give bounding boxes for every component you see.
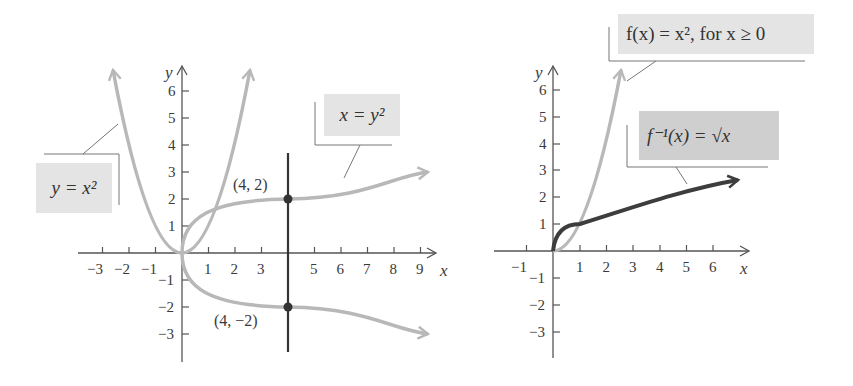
left-y-tick-label: 6	[168, 83, 176, 99]
left-y-tick-label: 4	[168, 137, 176, 153]
right-x-tick-label: 3	[629, 259, 637, 275]
right-y-axis-label: y	[533, 63, 543, 82]
left-x-tick-label: 9	[416, 261, 424, 277]
right-x-tick-label: 6	[709, 259, 717, 275]
left-y-tick-label: 5	[168, 110, 176, 126]
label-text: f(x) = x², for x ≥ 0	[626, 23, 765, 45]
sideways-parabola-upper	[182, 172, 428, 253]
right-x-tick-label: 5	[683, 259, 691, 275]
right-x-tick-label: 2	[603, 259, 611, 275]
callout-leader-x-eq-y2	[344, 145, 360, 178]
label-x-equals-y-squared: x = y²	[324, 94, 400, 136]
right-y-tick-label: 3	[539, 162, 547, 178]
left-y-ticks	[182, 91, 189, 334]
right-x-axis-label: x	[739, 259, 748, 278]
label-text: y = x²	[52, 177, 97, 199]
left-x-tick-label: 5	[310, 261, 318, 277]
left-y-tick-label: −2	[158, 299, 174, 315]
figure-canvas: −3 −2 −1 1 2 3 5 6 7 8 9 x 6 5 4 3 2 1 −…	[0, 0, 853, 386]
point-label-4-2: (4, 2)	[233, 176, 268, 194]
label-f-inverse-sqrt: f⁻¹(x) = √x	[639, 111, 779, 160]
right-y-ticks	[553, 90, 560, 332]
callout-leader-y-eq-x2	[83, 124, 118, 154]
label-y-equals-x-squared: y = x²	[36, 163, 112, 213]
right-y-tick-label: −1	[529, 270, 545, 286]
left-y-tick-label: −1	[158, 272, 174, 288]
point-4-neg2	[284, 303, 293, 312]
left-x-tick-label: 1	[204, 261, 212, 277]
right-graph: −1 1 2 3 4 5 6 x 6 5 4 3 2 1 −1 −2 −3 y	[494, 27, 805, 358]
curve-f-inverse-sqrt	[553, 180, 738, 251]
point-label-4-neg2: (4, −2)	[214, 312, 258, 330]
right-y-tick-label: 6	[539, 82, 547, 98]
left-y-axis-label: y	[163, 63, 173, 82]
right-x-tick-label: 4	[656, 259, 664, 275]
point-4-2	[284, 195, 293, 204]
left-x-tick-label: −2	[114, 261, 130, 277]
left-x-tick-label: 3	[257, 261, 265, 277]
right-y-tick-label: 4	[539, 136, 547, 152]
right-x-tick-label: −1	[511, 259, 527, 275]
left-x-tick-label: −3	[87, 261, 103, 277]
left-x-tick-label: 8	[390, 261, 398, 277]
right-y-tick-label: −3	[529, 324, 545, 340]
label-f-x-squared: f(x) = x², for x ≥ 0	[618, 14, 814, 54]
left-y-tick-label: 3	[168, 164, 176, 180]
callout-leader-f-inverse	[676, 167, 687, 184]
left-x-tick-label: −1	[141, 261, 157, 277]
left-y-tick-label: −3	[158, 326, 174, 342]
label-text: x = y²	[340, 104, 385, 126]
left-x-tick-label: 7	[363, 261, 371, 277]
left-x-ticks	[103, 247, 421, 253]
right-y-tick-label: 5	[539, 109, 547, 125]
left-y-tick-label: 1	[168, 218, 176, 234]
left-x-axis-label: x	[439, 261, 448, 280]
left-x-tick-label: 2	[231, 261, 239, 277]
right-y-tick-label: 2	[539, 189, 547, 205]
callout-leader-f	[627, 61, 656, 81]
left-x-tick-label: 6	[337, 261, 345, 277]
right-y-tick-label: −2	[529, 297, 545, 313]
label-text: f⁻¹(x) = √x	[647, 124, 730, 147]
right-x-tick-label: 1	[576, 259, 584, 275]
right-y-tick-label: 1	[539, 216, 547, 232]
left-y-tick-label: 2	[168, 191, 176, 207]
